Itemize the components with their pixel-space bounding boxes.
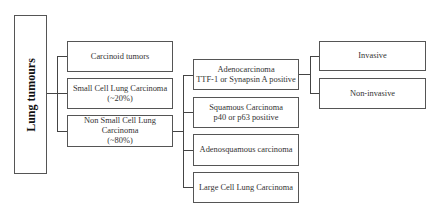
node-label: Lung tumours [26, 58, 36, 132]
node-label: Non Small Cell Lung [84, 116, 156, 126]
connector [310, 93, 319, 94]
node-label: Squamous Carcinoma [209, 103, 283, 113]
node-adenocarcinoma: Adenocarcinoma TTF-1 or Synapsin A posit… [193, 59, 299, 90]
connector [183, 150, 193, 151]
connector [183, 75, 184, 188]
node-marker: TTF-1 or Synapsin A positive [196, 75, 296, 85]
connector [183, 112, 193, 113]
node-label-cont: Carcinoma [102, 126, 139, 136]
node-label: Small Cell Lung Carcinoma [73, 84, 167, 94]
connector [173, 131, 183, 132]
connector [183, 187, 193, 188]
node-large-cell-lung-carcinoma: Large Cell Lung Carcinoma [193, 172, 299, 203]
node-squamous-carcinoma: Squamous Carcinoma p40 or p63 positive [193, 97, 299, 128]
node-non-invasive: Non-invasive [319, 78, 426, 109]
node-label: Carcinoid tumors [91, 52, 149, 62]
connector [57, 93, 67, 94]
node-carcinoid-tumors: Carcinoid tumors [67, 41, 173, 72]
connector [57, 56, 58, 132]
node-label: Adenosquamous carcinoma [200, 145, 293, 155]
connector [47, 93, 57, 94]
node-label: Adenocarcinoma [217, 65, 274, 75]
node-percentage: (~20%) [107, 94, 132, 104]
node-label: Non-invasive [350, 89, 395, 99]
node-adenosquamous-carcinoma: Adenosquamous carcinoma [193, 134, 299, 166]
connector [57, 131, 67, 132]
connector [183, 75, 193, 76]
node-invasive: Invasive [319, 41, 426, 71]
node-percentage: (~80%) [107, 136, 132, 146]
connector [310, 56, 311, 94]
node-marker: p40 or p63 positive [214, 113, 279, 123]
node-label: Invasive [358, 51, 386, 61]
connector [57, 56, 67, 57]
node-non-small-cell-lung-carcinoma: Non Small Cell Lung Carcinoma (~80%) [67, 115, 173, 147]
connector [299, 74, 310, 75]
connector [310, 56, 319, 57]
node-small-cell-lung-carcinoma: Small Cell Lung Carcinoma (~20%) [67, 78, 173, 109]
node-lung-tumours: Lung tumours [14, 15, 47, 174]
node-label: Large Cell Lung Carcinoma [199, 183, 293, 193]
